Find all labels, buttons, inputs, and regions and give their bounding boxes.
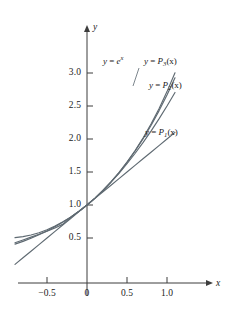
curve-label-p1-arg: (x) <box>167 127 178 137</box>
curve-label-p3-lhs: y <box>144 56 148 66</box>
curve-y-p3-x- <box>15 78 175 243</box>
plot-area <box>0 0 229 310</box>
curve-label-exp-exponent: x <box>121 54 124 61</box>
curve-label-exp-lhs: y <box>103 56 107 66</box>
curve-y-p1-x- <box>15 132 175 264</box>
curve-label-p1-eq: = <box>151 127 156 137</box>
y-axis-name: y <box>93 22 97 32</box>
curve-label-p2-sub: 2 <box>168 84 171 91</box>
y-tick-label: 3.0 <box>57 67 81 77</box>
x-tick-label: −0.5 <box>35 288 59 298</box>
curve-label-exp-base: e <box>117 56 121 66</box>
figure-canvas: y x y = ex y = P3(x) y = P2(x) y = P1(x)… <box>0 0 229 310</box>
x-tick-label: 0 <box>75 288 99 298</box>
curve-y-e-x <box>15 73 175 244</box>
y-tick-label: 1.0 <box>57 199 81 209</box>
curve-label-p3: y = P3(x) <box>144 56 177 66</box>
curve-label-p3-eq: = <box>150 56 155 66</box>
curve-label-exp-eq: = <box>109 56 114 66</box>
curve-label-p2-lhs: y <box>149 80 153 90</box>
curve-y-p2-x- <box>15 92 175 237</box>
x-axis-name: x <box>216 278 220 288</box>
curve-label-p3-arg: (x) <box>166 56 177 66</box>
y-tick-label: 0.5 <box>57 232 81 242</box>
leader-lines <box>133 68 139 86</box>
curve-label-p2-eq: = <box>155 80 160 90</box>
curve-group <box>15 73 175 265</box>
leader-line-exp <box>133 68 139 86</box>
y-tick-label: 2.5 <box>57 100 81 110</box>
x-tick-marks <box>47 277 167 283</box>
x-tick-label: 0.5 <box>115 288 139 298</box>
curve-label-p2-arg: (x) <box>171 80 182 90</box>
y-tick-label: 2.0 <box>57 133 81 143</box>
x-axis-arrowhead <box>206 280 213 286</box>
curve-label-p1-lhs: y <box>145 127 149 137</box>
curve-label-exp: y = ex <box>103 56 124 66</box>
x-tick-label: 1.0 <box>155 288 179 298</box>
y-axis-arrowhead <box>84 25 90 32</box>
curve-label-p1: y = P1(x) <box>145 127 178 137</box>
y-tick-label: 1.5 <box>57 166 81 176</box>
curve-label-p2: y = P2(x) <box>149 80 182 90</box>
y-tick-marks <box>87 73 93 238</box>
curve-label-p3-sub: 3 <box>163 60 166 67</box>
curve-label-p1-sub: 1 <box>164 131 167 138</box>
